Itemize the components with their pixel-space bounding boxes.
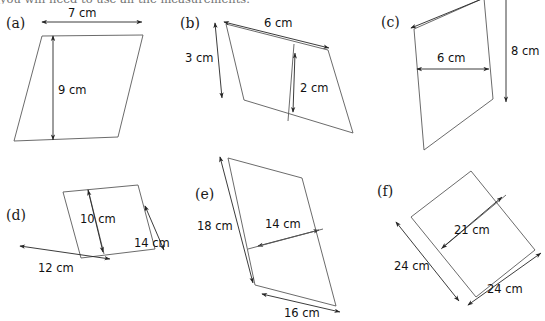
figure-d-height-label: 10 cm bbox=[80, 212, 116, 226]
figure-d-base-label: 12 cm bbox=[38, 261, 74, 275]
figure-e-label: (e) bbox=[195, 186, 214, 202]
figure-f-base-arrow bbox=[468, 253, 541, 305]
figure-d-base-arrow bbox=[20, 246, 110, 259]
figure-c-top-arrow bbox=[411, 0, 494, 28]
figure-e-height-label: 14 cm bbox=[265, 217, 301, 231]
figure-a-label: (a) bbox=[6, 15, 25, 31]
figure-b-side-arrow bbox=[215, 23, 222, 98]
figure-b-parallelogram bbox=[226, 24, 353, 133]
figure-a: (a) 7 cm 9 cm bbox=[6, 6, 143, 141]
figure-b-base-label: 6 cm bbox=[264, 16, 293, 30]
figures-canvas: (a) 7 cm 9 cm (b) 6 cm 3 cm 2 cm (c) 6 c… bbox=[0, 0, 545, 321]
figure-e-parallelogram bbox=[228, 158, 336, 306]
figure-f-side-label: 24 cm bbox=[394, 259, 430, 273]
figure-f-height-label: 21 cm bbox=[454, 223, 490, 237]
figure-d: (d) 10 cm 14 cm 12 cm bbox=[6, 185, 170, 275]
figure-c: (c) 6 cm 8 cm bbox=[381, 0, 540, 150]
figure-e-height-segment bbox=[248, 229, 323, 249]
figure-b-label: (b) bbox=[180, 15, 200, 31]
figure-b-height-arrow bbox=[293, 53, 295, 112]
worksheet-page: you will need to use all the measurement… bbox=[0, 0, 545, 321]
figure-b: (b) 6 cm 3 cm 2 cm bbox=[180, 15, 353, 133]
figure-f-label: (f) bbox=[377, 183, 393, 199]
figure-c-label: (c) bbox=[381, 14, 400, 30]
figure-c-height-label: 8 cm bbox=[511, 44, 540, 58]
figure-d-label: (d) bbox=[6, 207, 26, 223]
figure-e-side-label: 18 cm bbox=[197, 219, 233, 233]
figure-e: (e) 18 cm 14 cm 16 cm bbox=[195, 157, 340, 320]
figure-f: (f) 21 cm 24 cm 24 cm bbox=[377, 171, 541, 305]
figure-a-height-label: 9 cm bbox=[58, 83, 87, 97]
figure-d-side-label: 14 cm bbox=[134, 236, 170, 250]
figure-c-base-label: 6 cm bbox=[437, 51, 466, 65]
figure-e-base-label: 16 cm bbox=[284, 306, 320, 320]
figure-f-base-label: 24 cm bbox=[487, 282, 523, 296]
figure-b-side-label: 3 cm bbox=[185, 51, 214, 65]
figure-c-parallelogram bbox=[414, 0, 493, 150]
figure-b-height-label: 2 cm bbox=[300, 81, 329, 95]
figure-a-base-label: 7 cm bbox=[68, 6, 97, 20]
